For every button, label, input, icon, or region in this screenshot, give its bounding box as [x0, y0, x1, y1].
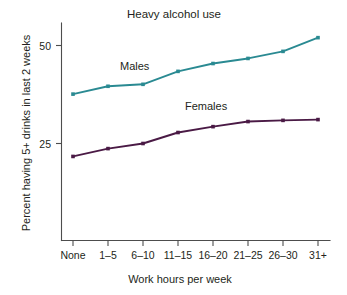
data-point-marker	[211, 62, 215, 66]
data-point-marker	[316, 118, 320, 122]
x-tick-label-11-15: 11–15	[164, 249, 193, 261]
data-point-marker	[141, 83, 145, 87]
series-markers-females	[71, 118, 320, 158]
x-tick-label-21-25: 21–25	[233, 249, 262, 261]
data-point-marker	[281, 119, 285, 123]
x-tick-label-16-20: 16–20	[198, 249, 227, 261]
data-point-marker	[71, 155, 75, 159]
chart-figure: Heavy alcohol use Percent having 5+ drin…	[0, 0, 347, 295]
line-chart: Heavy alcohol use Percent having 5+ drin…	[0, 0, 347, 295]
series-line-females	[73, 120, 318, 157]
data-point-marker	[281, 50, 285, 54]
data-point-marker	[176, 70, 180, 74]
data-point-marker	[211, 125, 215, 129]
data-point-marker	[176, 131, 180, 135]
x-tick-label-1-5: 1–5	[99, 249, 117, 261]
data-point-marker	[246, 57, 250, 61]
x-tick-label-31-plus: 31+	[309, 249, 327, 261]
series-annotation-males: Males	[120, 60, 150, 72]
data-point-marker	[141, 142, 145, 146]
series-annotation-females: Females	[185, 100, 228, 112]
series-group-males	[71, 36, 320, 96]
data-point-marker	[106, 84, 110, 88]
y-axis-title: Percent having 5+ drinks in last 2 weeks	[20, 34, 32, 231]
data-point-marker	[71, 92, 75, 96]
x-tick-label-26-30: 26–30	[268, 249, 297, 261]
x-tick-label-6-10: 6–10	[131, 249, 155, 261]
series-group-females	[71, 118, 320, 158]
x-axis-title: Work hours per week	[128, 273, 232, 285]
chart-title: Heavy alcohol use	[127, 8, 221, 20]
data-point-marker	[246, 120, 250, 124]
data-point-marker	[106, 147, 110, 151]
y-tick-label-25: 25	[39, 138, 51, 150]
series-markers-males	[71, 36, 320, 96]
x-tick-label-none: None	[60, 249, 85, 261]
data-point-marker	[316, 36, 320, 40]
y-tick-label-50: 50	[39, 40, 51, 52]
